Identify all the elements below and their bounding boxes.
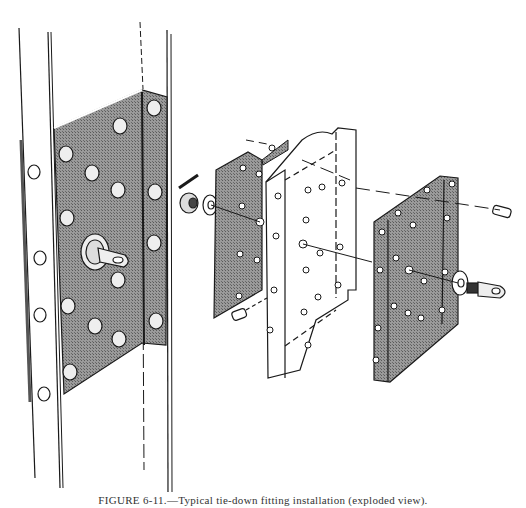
bolt-upper bbox=[492, 205, 512, 218]
eye-bolt-fitting bbox=[452, 271, 505, 298]
exploded-view-illustration bbox=[0, 0, 526, 508]
assembled-doubler-plate bbox=[54, 90, 167, 394]
figure-caption: FIGURE 6-11.—Typical tie-down fitting in… bbox=[0, 494, 526, 506]
nut-washer-cotter bbox=[179, 175, 217, 215]
middle-channel bbox=[266, 128, 356, 378]
rear-angle-plate bbox=[373, 176, 458, 382]
